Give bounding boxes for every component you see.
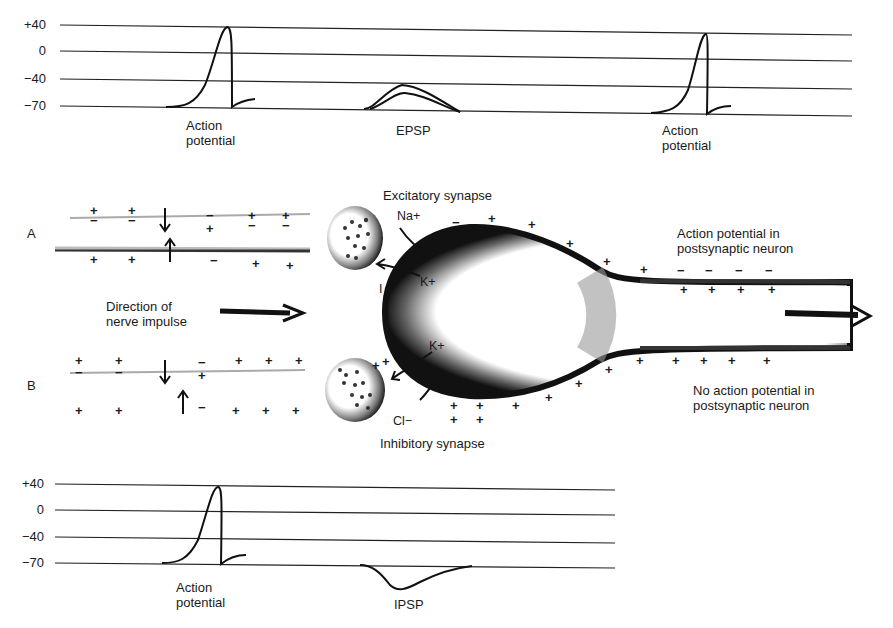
label-line: nerve impulse xyxy=(106,314,187,329)
label-inhibitory-synapse: Inhibitory synapse xyxy=(380,436,485,451)
label-line: postsynaptic neuron xyxy=(677,241,793,256)
ion-k-bottom: K+ xyxy=(429,339,445,353)
top-y-tick-40: +40 xyxy=(6,18,46,32)
label-line: No action potential in xyxy=(693,383,814,398)
label-line: Action xyxy=(176,580,212,595)
ion-na: Na+ xyxy=(397,209,420,223)
top-y-tick-neg70: −70 xyxy=(6,99,46,113)
label-line: Action potential in xyxy=(677,226,780,241)
label-epsp: EPSP xyxy=(396,123,431,138)
label-action-potential-2: Actionpotential xyxy=(662,123,711,153)
label-action-potential-1: Actionpotential xyxy=(186,118,235,148)
top-action-potential-2 xyxy=(651,34,731,114)
label-ap-postsynaptic: Action potential inpostsynaptic neuron xyxy=(677,226,793,256)
bottom-y-tick-neg70: −70 xyxy=(4,556,44,570)
terminal-bouton-a xyxy=(327,206,383,270)
bottom-chart-grid xyxy=(55,484,615,568)
bottom-y-tick-0: 0 xyxy=(4,503,44,517)
label-line: potential xyxy=(186,133,235,148)
output-arrow xyxy=(785,313,858,315)
label-excitatory-synapse: Excitatory synapse xyxy=(383,188,492,203)
top-chart-grid xyxy=(60,25,852,116)
bottom-y-tick-neg40: −40 xyxy=(4,530,44,544)
label-line: potential xyxy=(176,595,225,610)
label-line: Action xyxy=(186,118,222,133)
label-ipsp: IPSP xyxy=(394,597,424,612)
top-y-tick-neg40: −40 xyxy=(6,72,46,86)
ion-cl: Cl− xyxy=(393,414,412,428)
label-neuron-a: A xyxy=(27,226,36,241)
label-line: Direction of xyxy=(106,299,172,314)
label-action-potential-bottom: Actionpotential xyxy=(176,580,225,610)
epsp-trace-high xyxy=(364,85,460,112)
direction-arrow xyxy=(220,311,290,313)
bottom-action-potential xyxy=(162,487,246,564)
label-line: Action xyxy=(662,123,698,138)
label-direction-of-impulse: Direction ofnerve impulse xyxy=(106,299,187,329)
label-neuron-b: B xyxy=(27,378,36,393)
label-line: potential xyxy=(662,138,711,153)
top-y-tick-0: 0 xyxy=(6,44,46,58)
top-action-potential-1 xyxy=(166,27,255,107)
ipsp-trace xyxy=(360,565,472,589)
label-no-ap-postsynaptic: No action potential inpostsynaptic neuro… xyxy=(693,383,814,413)
ion-i-mark: I xyxy=(379,282,382,296)
label-line: postsynaptic neuron xyxy=(693,398,809,413)
ion-k-top: K+ xyxy=(420,275,436,289)
bottom-y-tick-40: +40 xyxy=(4,477,44,491)
